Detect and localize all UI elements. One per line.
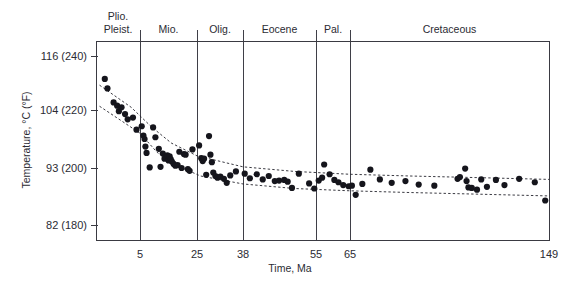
- data-point: [484, 184, 490, 190]
- plot-frame: [96, 41, 549, 240]
- data-point: [367, 167, 373, 173]
- data-point: [542, 197, 548, 203]
- data-point: [457, 174, 463, 180]
- data-point: [327, 171, 333, 177]
- epoch-label-5: Cretaceous: [423, 23, 477, 35]
- data-point: [296, 171, 302, 177]
- data-point: [186, 168, 192, 174]
- data-point: [196, 142, 202, 148]
- data-point: [266, 173, 272, 179]
- data-point: [224, 180, 230, 186]
- data-point: [478, 176, 484, 182]
- data-point: [133, 127, 139, 133]
- data-point: [157, 164, 163, 170]
- data-point: [260, 176, 266, 182]
- x-tick-label-0: 5: [137, 248, 143, 260]
- data-point: [203, 172, 209, 178]
- data-point: [285, 179, 291, 185]
- data-point: [183, 152, 189, 158]
- data-point: [340, 182, 346, 188]
- x-axis: 525385565149: [137, 248, 558, 260]
- data-point: [431, 183, 437, 189]
- data-point: [233, 168, 239, 174]
- data-point: [247, 175, 253, 181]
- epoch-label-0-line1: Plio.: [108, 10, 128, 22]
- y-tick-label-3: 82 (180): [46, 219, 87, 231]
- epoch-label-row: Plio.Pleist.Mio.Olig.EocenePal.Cretaceou…: [104, 10, 477, 35]
- epoch-label-2: Olig.: [209, 23, 231, 35]
- data-point: [141, 136, 147, 142]
- data-point: [152, 134, 158, 140]
- data-point: [139, 123, 145, 129]
- data-point: [389, 180, 395, 186]
- y-tick-label-2: 93 (200): [46, 162, 87, 174]
- data-point: [349, 183, 355, 189]
- data-point: [493, 177, 499, 183]
- data-point: [118, 104, 124, 110]
- data-point: [311, 185, 317, 191]
- y-tick-label-1: 104 (220): [40, 104, 87, 116]
- x-tick-label-2: 38: [237, 248, 249, 260]
- x-tick-label-1: 25: [191, 248, 203, 260]
- data-point: [143, 150, 149, 156]
- data-point: [416, 181, 422, 187]
- x-axis-title: Time, Ma: [268, 262, 312, 274]
- data-point: [516, 176, 522, 182]
- chart-figure: Plio.Pleist.Mio.Olig.EocenePal.Cretaceou…: [0, 0, 585, 290]
- data-point: [319, 175, 325, 181]
- data-point: [306, 180, 312, 186]
- data-point: [207, 152, 213, 158]
- data-point: [104, 85, 110, 91]
- data-point: [150, 124, 156, 130]
- data-point: [289, 185, 295, 191]
- data-point: [359, 181, 365, 187]
- data-point: [462, 165, 468, 171]
- data-point: [125, 116, 131, 122]
- data-point: [130, 114, 136, 120]
- x-tick-label-4: 65: [344, 248, 356, 260]
- data-point: [321, 161, 327, 167]
- data-point: [474, 187, 480, 193]
- x-tick-label-3: 55: [310, 248, 322, 260]
- data-point: [201, 156, 207, 162]
- epoch-label-0-line2: Pleist.: [104, 23, 133, 35]
- epoch-label-3: Eocene: [262, 23, 298, 35]
- epoch-label-4: Pal.: [324, 23, 342, 35]
- data-point: [402, 178, 408, 184]
- data-point: [179, 165, 185, 171]
- data-points: [102, 76, 549, 204]
- data-point: [242, 171, 248, 177]
- data-point: [377, 176, 383, 182]
- data-point: [209, 159, 215, 165]
- scatter-plot-svg: Plio.Pleist.Mio.Olig.EocenePal.Cretaceou…: [0, 0, 585, 290]
- data-point: [227, 172, 233, 178]
- plot-border: [96, 41, 549, 240]
- y-axis: 116 (240)104 (220)93 (200)82 (180): [40, 50, 98, 231]
- data-point: [147, 164, 153, 170]
- y-axis-title: Temperature, °C (°F): [20, 91, 32, 188]
- data-point: [206, 133, 212, 139]
- epoch-label-1: Mio.: [159, 23, 179, 35]
- data-point: [102, 76, 108, 82]
- data-point: [254, 171, 260, 177]
- data-point: [189, 146, 195, 152]
- data-point: [463, 178, 469, 184]
- data-point: [532, 179, 538, 185]
- data-point: [353, 192, 359, 198]
- data-point: [501, 182, 507, 188]
- epoch-divider-lines: [140, 30, 350, 240]
- data-point: [142, 143, 148, 149]
- y-tick-label-0: 116 (240): [41, 50, 87, 62]
- x-tick-label-5: 149: [540, 248, 558, 260]
